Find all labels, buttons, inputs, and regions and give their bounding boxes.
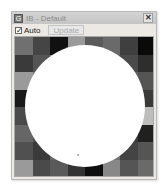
app-icon: G [14,14,23,23]
grid-cell [138,55,155,73]
grid-cell [15,37,33,55]
auto-label[interactable]: Auto [24,26,40,35]
update-button[interactable]: Update [48,25,84,35]
grid-cell [138,37,155,55]
grid-cell [120,37,138,55]
grid-cell [138,142,155,160]
white-circle [25,45,145,167]
grid-cell [15,160,33,178]
window-title: IB - Default [26,14,66,23]
center-dot [77,154,79,156]
grid-cell [33,160,51,178]
toolbar: ✓ Auto Update [12,24,156,36]
grid-cell [15,55,33,73]
grid-cell [120,160,138,178]
image-canvas[interactable] [14,36,154,177]
grid-cell [138,160,155,178]
title-bar[interactable]: G IB - Default ✕ [12,12,156,24]
auto-checkbox[interactable]: ✓ [15,27,22,34]
grid-cell [15,142,33,160]
grid-cell [33,37,51,55]
close-button[interactable]: ✕ [143,13,153,23]
ib-window: G IB - Default ✕ ✓ Auto Update [11,11,157,180]
